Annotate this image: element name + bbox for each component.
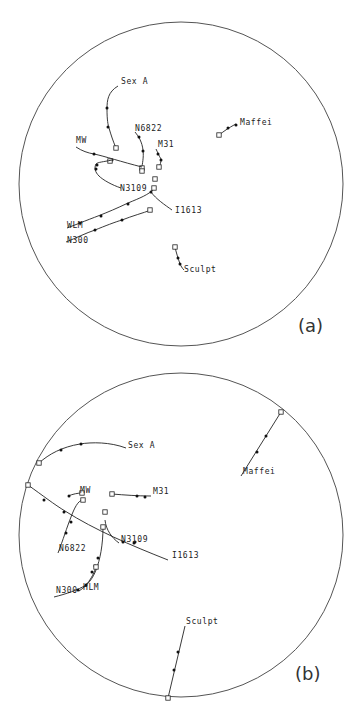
galaxy-label: Maffei: [243, 467, 276, 476]
track-maffei: Maffei: [217, 118, 273, 137]
start-square-icon: [101, 525, 105, 529]
trajectory-line: [175, 247, 184, 270]
panel-a: Sex AN6822M31MWN3109I1613WLMN300MaffeiSc…: [19, 22, 343, 346]
track-n3109: N3109: [95, 160, 148, 193]
position-dot-icon: [121, 219, 124, 222]
position-dot-icon: [65, 532, 68, 535]
panel-b: Sex AMaffeiMWM31I1613N6822N3109HLMN300Sc…: [19, 373, 343, 700]
start-square-icon: [152, 186, 156, 190]
galaxy-label: N300: [67, 236, 89, 245]
start-square-icon: [166, 696, 170, 700]
figure-canvas: Sex AN6822M31MWN3109I1613WLMN300MaffeiSc…: [0, 0, 357, 712]
sky-circle: [19, 373, 343, 697]
panel-label: (b): [295, 663, 320, 684]
position-dot-icon: [227, 127, 230, 130]
start-square-icon: [140, 169, 144, 173]
galaxy-label: MW: [76, 136, 87, 145]
trajectory-line: [79, 527, 103, 591]
position-dot-icon: [177, 651, 180, 654]
galaxy-label: M31: [158, 140, 174, 149]
galaxy-label: N6822: [59, 544, 86, 553]
position-dot-icon: [93, 153, 96, 156]
galaxy-label: I1613: [175, 206, 202, 215]
start-square-icon: [26, 483, 30, 487]
track-sex-a: Sex A: [106, 77, 149, 150]
track-m31: M31: [156, 140, 174, 169]
position-dot-icon: [142, 150, 145, 153]
start-square-icon: [173, 245, 177, 249]
trajectory-line: [156, 149, 161, 167]
galaxy-label: N6822: [135, 124, 162, 133]
start-square-icon: [153, 177, 157, 181]
position-dot-icon: [235, 124, 238, 127]
position-dot-icon: [97, 557, 100, 560]
panel-label: (a): [298, 315, 323, 336]
trajectory-line: [95, 160, 121, 188]
track-sculpt: Sculpt: [166, 617, 219, 700]
position-dot-icon: [138, 136, 141, 139]
start-square-icon: [103, 510, 107, 514]
track-mw: MW: [68, 486, 91, 498]
position-dot-icon: [43, 499, 46, 502]
position-dot-icon: [91, 571, 94, 574]
position-dot-icon: [136, 495, 139, 498]
position-dot-icon: [63, 511, 66, 514]
start-square-icon: [217, 133, 221, 137]
position-dot-icon: [107, 126, 110, 129]
position-dot-icon: [100, 215, 103, 218]
galaxy-label: Maffei: [240, 118, 273, 127]
start-square-icon: [157, 165, 161, 169]
position-dot-icon: [85, 584, 88, 587]
position-dot-icon: [173, 669, 176, 672]
position-dot-icon: [127, 203, 130, 206]
position-dot-icon: [157, 153, 160, 156]
start-square-icon: [279, 410, 283, 414]
trajectory-line: [105, 520, 119, 543]
position-dot-icon: [177, 257, 180, 260]
track-maffei: Maffei: [241, 410, 283, 476]
track-sculpt: Sculpt: [173, 245, 217, 274]
start-square-icon: [148, 208, 152, 212]
galaxy-label: Sculpt: [184, 265, 217, 274]
position-dot-icon: [80, 443, 83, 446]
track-i1613: I1613: [150, 177, 203, 215]
galaxy-label: MW: [80, 486, 91, 495]
start-square-icon: [110, 492, 114, 496]
position-dot-icon: [95, 168, 98, 171]
position-dot-icon: [160, 159, 163, 162]
position-dot-icon: [68, 495, 71, 498]
galaxy-label: Sex A: [121, 77, 148, 86]
start-square-icon: [81, 498, 85, 502]
position-dot-icon: [70, 521, 73, 524]
sky-circle: [19, 22, 343, 346]
start-square-icon: [114, 146, 118, 150]
position-dot-icon: [144, 496, 147, 499]
track-hlm: HLM: [79, 525, 105, 592]
track-n3109: N3109: [103, 510, 148, 545]
galaxy-label: Sex A: [128, 441, 155, 450]
galaxy-label: N300: [56, 586, 78, 595]
position-dot-icon: [256, 451, 259, 454]
start-square-icon: [37, 461, 41, 465]
position-dot-icon: [60, 449, 63, 452]
trajectory-line: [168, 626, 185, 698]
start-square-icon: [94, 565, 98, 569]
track-m31: M31: [110, 487, 169, 499]
galaxy-label: I1613: [172, 551, 199, 560]
trajectory-line: [76, 147, 142, 167]
galaxy-label: WLM: [67, 221, 83, 230]
position-dot-icon: [265, 435, 268, 438]
track-mw: MW: [76, 136, 142, 167]
track-n6822: N6822: [58, 498, 86, 553]
track-n300: N300: [54, 565, 98, 597]
position-dot-icon: [96, 164, 99, 167]
galaxy-label: N3109: [121, 535, 148, 544]
galaxy-label: Sculpt: [186, 617, 219, 626]
track-sex-a: Sex A: [37, 441, 155, 465]
trajectory-line: [107, 86, 118, 148]
galaxy-label: M31: [153, 487, 169, 496]
position-dot-icon: [179, 263, 182, 266]
position-dot-icon: [94, 229, 97, 232]
position-dot-icon: [106, 107, 109, 110]
galaxy-label: N3109: [120, 184, 147, 193]
